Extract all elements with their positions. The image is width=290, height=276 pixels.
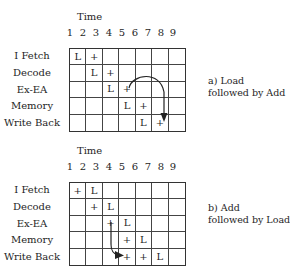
grid-cell (152, 199, 168, 215)
grid-cell: + (119, 249, 135, 265)
grid-cell (119, 49, 135, 65)
grid-cell: L (119, 216, 135, 232)
grid-cell (119, 115, 135, 131)
grid-cell (152, 98, 168, 114)
grid-cell: + (136, 249, 152, 265)
time-tick: 6 (129, 27, 141, 39)
grid-cell: + (152, 115, 168, 131)
time-tick: 7 (142, 161, 154, 173)
grid-cell: + (86, 199, 102, 215)
stage-label-write-back: Write Back (0, 249, 64, 266)
grid-cell (86, 249, 102, 265)
grid-cell: L (70, 49, 86, 65)
grid-cell (70, 216, 86, 232)
grid-cell: + (103, 65, 119, 81)
grid-cell (119, 65, 135, 81)
stage-label-decode: Decode (0, 65, 64, 82)
grid-cell (152, 232, 168, 248)
grid-cell (86, 216, 102, 232)
grid-cell: L (152, 249, 168, 265)
grid-cell (169, 82, 185, 98)
grid-cell: L (103, 199, 119, 215)
grid-cell: L (103, 82, 119, 98)
grid-cell (152, 183, 168, 199)
grid-cell (169, 249, 185, 265)
grid-cell (103, 98, 119, 114)
grid-cell (70, 115, 86, 131)
pipeline-diagram-a: Time 1 2 3 4 5 6 7 8 9 I Fetch Decode Ex… (0, 0, 290, 134)
time-tick: 1 (64, 27, 76, 39)
grid-cell (119, 183, 135, 199)
time-tick: 4 (103, 161, 115, 173)
stage-label-ifetch: I Fetch (0, 182, 64, 199)
grid-cell (169, 98, 185, 114)
grid-cell: L (86, 183, 102, 199)
grid-cell: L (136, 115, 152, 131)
time-tick: 8 (155, 161, 167, 173)
grid-cell: L (119, 98, 135, 114)
grid-cell (169, 49, 185, 65)
grid-cell (103, 249, 119, 265)
grid-cell (136, 65, 152, 81)
time-tick: 3 (90, 27, 102, 39)
time-tick: 1 (64, 161, 76, 173)
grid-cell (152, 65, 168, 81)
time-tick: 9 (167, 161, 179, 173)
grid-cell: + (119, 232, 135, 248)
grid-cell (103, 49, 119, 65)
pipeline-diagram-b: Time 1 2 3 4 5 6 7 8 9 I Fetch Decode Ex… (0, 134, 290, 268)
pipeline-grid: L + L + L + L + L + (69, 48, 186, 132)
stage-label-memory: Memory (0, 232, 64, 249)
grid-cell (103, 115, 119, 131)
grid-cell (70, 98, 86, 114)
grid-cell: + (86, 49, 102, 65)
stage-label-ex-ea: Ex-EA (0, 82, 64, 99)
grid-cell: L (86, 65, 102, 81)
stage-label-memory: Memory (0, 98, 64, 115)
time-tick: 7 (142, 27, 154, 39)
stage-label-decode: Decode (0, 199, 64, 216)
grid-cell (119, 199, 135, 215)
caption-line: followed by Load (208, 214, 290, 226)
grid-cell (136, 199, 152, 215)
grid-cell (152, 82, 168, 98)
grid-cell: + (119, 82, 135, 98)
stage-label-ex-ea: Ex-EA (0, 216, 64, 233)
caption-line: followed by Add (208, 87, 285, 99)
caption-a: a) Load followed by Add (208, 75, 285, 99)
grid-cell (136, 216, 152, 232)
grid-cell (169, 115, 185, 131)
grid-cell (136, 49, 152, 65)
time-axis-label: Time (77, 145, 102, 157)
caption-b: b) Add followed by Load (208, 202, 290, 226)
time-tick: 5 (116, 161, 128, 173)
grid-cell (169, 199, 185, 215)
time-tick: 6 (129, 161, 141, 173)
grid-cell (86, 82, 102, 98)
grid-cell (103, 183, 119, 199)
grid-cell (169, 183, 185, 199)
time-tick: 4 (103, 27, 115, 39)
stage-label-ifetch: I Fetch (0, 48, 64, 65)
grid-cell: + (136, 98, 152, 114)
grid-cell (169, 232, 185, 248)
caption-line: b) Add (208, 202, 290, 214)
time-tick: 5 (116, 27, 128, 39)
grid-cell (169, 65, 185, 81)
grid-cell (152, 49, 168, 65)
time-tick: 2 (77, 161, 89, 173)
time-axis-label: Time (77, 11, 102, 23)
grid-cell (152, 216, 168, 232)
grid-cell (86, 98, 102, 114)
time-tick: 9 (167, 27, 179, 39)
grid-cell (70, 65, 86, 81)
grid-cell (86, 232, 102, 248)
grid-cell: L (136, 232, 152, 248)
grid-cell (70, 232, 86, 248)
time-tick: 8 (155, 27, 167, 39)
time-tick: 3 (90, 161, 102, 173)
grid-cell: + (103, 216, 119, 232)
time-tick: 2 (77, 27, 89, 39)
grid-cell (136, 82, 152, 98)
grid-cell (169, 216, 185, 232)
